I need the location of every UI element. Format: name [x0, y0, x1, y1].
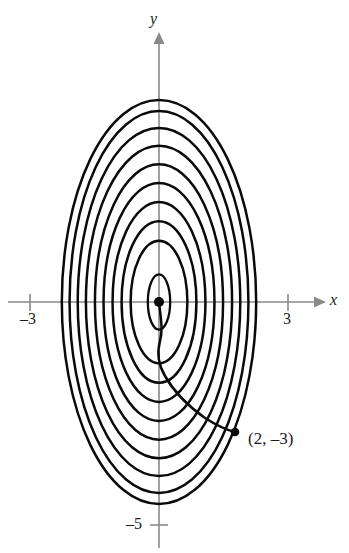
y-axis-label: y — [150, 11, 157, 27]
graph-figure: y x –3 3 –5 (2, –3) — [0, 0, 349, 553]
x-axis-arrowhead — [314, 297, 326, 308]
y-axis-arrowhead — [154, 32, 165, 44]
x-axis-label: x — [330, 292, 337, 308]
x-tick-label-pos3: 3 — [283, 311, 291, 327]
x-tick-label-neg3: –3 — [20, 311, 36, 327]
labeled-point-dot — [231, 428, 240, 437]
origin-point-dot — [154, 297, 164, 307]
coordinate-plane-svg — [0, 0, 349, 553]
point-coordinate-label: (2, –3) — [248, 430, 293, 447]
y-tick-label-neg5: –5 — [126, 516, 142, 532]
axes-group — [8, 32, 326, 548]
